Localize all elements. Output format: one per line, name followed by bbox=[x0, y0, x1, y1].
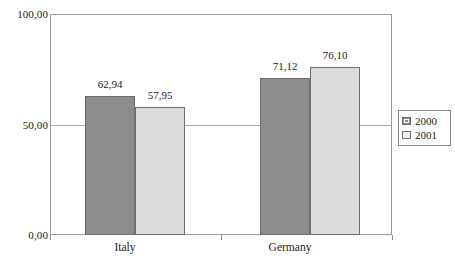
x-axis-category-label-germany: Germany bbox=[245, 241, 335, 254]
bar-italy-2001[interactable] bbox=[135, 107, 185, 235]
x-axis-tick-middle bbox=[221, 235, 222, 240]
x-axis-tick-right bbox=[392, 235, 393, 240]
x-axis-category-label-italy: Italy bbox=[85, 241, 165, 254]
legend-swatch-icon-2001 bbox=[402, 131, 411, 139]
legend-item-2001[interactable]: 2001 bbox=[402, 128, 447, 142]
bar-label-italy-2001: 57,95 bbox=[135, 90, 185, 101]
y-axis-tick-label-100: 100,00 bbox=[2, 9, 48, 20]
bar-italy-2000[interactable] bbox=[85, 96, 135, 235]
y-axis-tick-label-0: 0,00 bbox=[2, 230, 48, 241]
bar-label-germany-2000: 71,12 bbox=[260, 61, 310, 72]
legend-swatch-icon-2000 bbox=[402, 117, 411, 125]
bars-layer bbox=[50, 14, 392, 235]
bar-label-italy-2000: 62,94 bbox=[85, 79, 135, 90]
bar-label-germany-2001: 76,10 bbox=[310, 50, 360, 61]
legend-item-2000[interactable]: 2000 bbox=[402, 114, 447, 128]
y-axis-tick-label-50: 50,00 bbox=[2, 120, 48, 131]
legend-label-2001: 2001 bbox=[415, 130, 437, 141]
y-axis: 100,00 50,00 0,00 bbox=[0, 0, 48, 265]
legend: 2000 2001 bbox=[398, 110, 451, 146]
bar-germany-2000[interactable] bbox=[260, 78, 310, 235]
legend-label-2000: 2000 bbox=[415, 116, 437, 127]
bar-chart: 100,00 50,00 0,00 62,94 57,95 71,12 76,1… bbox=[0, 0, 455, 265]
x-axis-tick-left bbox=[50, 235, 51, 240]
bar-germany-2001[interactable] bbox=[310, 67, 360, 235]
